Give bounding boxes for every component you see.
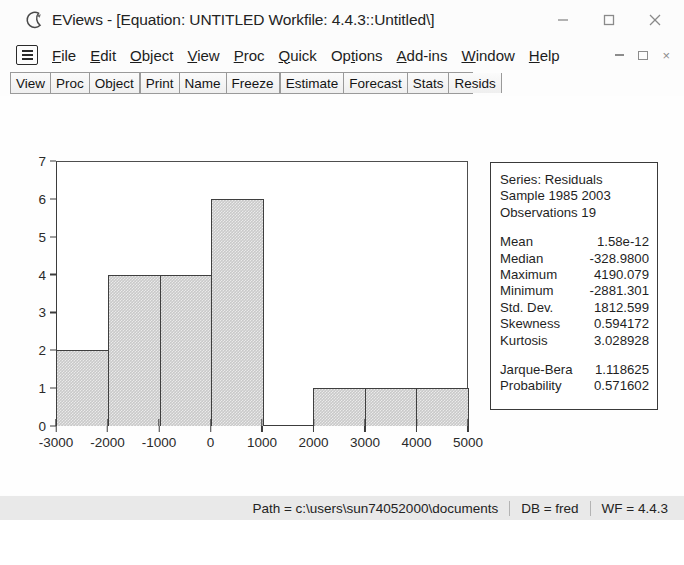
toolbar-button-name[interactable]: Name bbox=[180, 73, 227, 93]
y-axis-tick: 1 bbox=[38, 381, 56, 396]
statistics-tests: Jarque-Bera1.118625Probability0.571602 bbox=[500, 362, 657, 395]
menu-item-proc[interactable]: Proc bbox=[227, 47, 272, 64]
stats-observations: Observations 19 bbox=[500, 205, 657, 221]
stat-value: 0.594172 bbox=[579, 316, 649, 332]
mdi-restore-icon[interactable] bbox=[638, 51, 648, 60]
eviews-logo-icon bbox=[24, 10, 44, 30]
x-axis-tick: 1000 bbox=[247, 426, 277, 450]
mdi-window-controls: × bbox=[615, 40, 670, 70]
object-toolbar: View Proc Object Print Name Freeze Estim… bbox=[10, 72, 473, 94]
stat-value: -2881.301 bbox=[579, 283, 649, 299]
test-row: Probability0.571602 bbox=[500, 378, 657, 394]
menu-item-addins[interactable]: Add-ins bbox=[390, 47, 455, 64]
maximize-icon[interactable] bbox=[586, 3, 632, 37]
x-axis-tick: 2000 bbox=[298, 426, 328, 450]
stats-spacer-1 bbox=[500, 221, 657, 234]
stat-label: Kurtosis bbox=[500, 333, 579, 349]
statistic-row: Maximum 4190.079 bbox=[500, 267, 657, 283]
mdi-minimize-icon[interactable] bbox=[615, 54, 624, 56]
menu-bar: File Edit Object View Proc Quick Options… bbox=[0, 40, 684, 70]
statistic-row: Skewness 0.594172 bbox=[500, 316, 657, 332]
x-axis-tick: -3000 bbox=[39, 426, 74, 450]
toolbar-button-print[interactable]: Print bbox=[141, 73, 180, 93]
status-separator-1 bbox=[509, 501, 510, 516]
x-axis-inner-tick bbox=[364, 419, 365, 426]
window-title: EViews - [Equation: UNTITLED Workfile: 4… bbox=[52, 11, 434, 29]
stat-value: 4190.079 bbox=[579, 267, 649, 283]
status-separator-2 bbox=[590, 501, 591, 516]
y-axis-tick: 2 bbox=[38, 343, 56, 358]
statistic-row: Minimum-2881.301 bbox=[500, 283, 657, 299]
stat-label: Median bbox=[500, 251, 579, 267]
x-axis-inner-tick bbox=[261, 419, 262, 426]
statistic-row: Median-328.9800 bbox=[500, 251, 657, 267]
stat-label: Probability bbox=[500, 378, 579, 394]
x-axis-tick: 4000 bbox=[401, 426, 431, 450]
histogram-bar bbox=[211, 199, 264, 426]
statistic-row: Kurtosis 3.028928 bbox=[500, 333, 657, 349]
menu-item-edit[interactable]: Edit bbox=[83, 47, 123, 64]
x-axis-inner-tick bbox=[313, 419, 314, 426]
y-axis-tick: 6 bbox=[38, 191, 56, 206]
menu-item-window[interactable]: Window bbox=[454, 47, 521, 64]
stat-value: 1.118625 bbox=[579, 362, 649, 378]
toolbar-button-freeze[interactable]: Freeze bbox=[227, 73, 280, 93]
x-axis-tick: 0 bbox=[207, 426, 215, 450]
stat-label: Std. Dev. bbox=[500, 300, 579, 316]
stat-label: Mean bbox=[500, 234, 579, 250]
toolbar-button-forecast[interactable]: Forecast bbox=[344, 73, 408, 93]
histogram-x-axis: -3000-2000-1000010002000300040005000 bbox=[56, 426, 468, 452]
statistic-row: Mean1.58e-12 bbox=[500, 234, 657, 250]
menu-item-options[interactable]: Options bbox=[324, 47, 390, 64]
page-margin bbox=[0, 520, 684, 565]
histogram-bar bbox=[365, 388, 418, 426]
status-path: Path = c:\users\sun74052000\documents bbox=[252, 501, 498, 516]
toolbar-button-resids[interactable]: Resids bbox=[449, 73, 501, 93]
mdi-close-icon[interactable]: × bbox=[662, 49, 670, 62]
close-icon[interactable] bbox=[632, 3, 678, 37]
eviews-window: EViews - [Equation: UNTITLED Workfile: 4… bbox=[0, 0, 684, 565]
x-axis-tick: 3000 bbox=[350, 426, 380, 450]
toolbar-button-proc[interactable]: Proc bbox=[51, 73, 90, 93]
stat-value: 3.028928 bbox=[579, 333, 649, 349]
toolbar-button-view[interactable]: View bbox=[11, 73, 51, 93]
window-controls bbox=[540, 0, 678, 40]
status-db: DB = fred bbox=[521, 501, 578, 516]
menu-item-help[interactable]: Help bbox=[522, 47, 567, 64]
toolbar-button-object[interactable]: Object bbox=[90, 73, 140, 93]
histogram-plot bbox=[56, 161, 468, 426]
menu-item-view[interactable]: View bbox=[180, 47, 226, 64]
toolbar-button-stats[interactable]: Stats bbox=[408, 73, 450, 93]
x-axis-tick: -1000 bbox=[142, 426, 177, 450]
toolbar-button-estimate[interactable]: Estimate bbox=[281, 73, 345, 93]
stat-value: 0.571602 bbox=[579, 378, 649, 394]
x-axis-tick: 5000 bbox=[453, 426, 483, 450]
x-axis-inner-tick bbox=[107, 419, 108, 426]
system-menu-icon[interactable] bbox=[16, 45, 38, 65]
menu-item-file[interactable]: File bbox=[45, 47, 83, 64]
status-wf: WF = 4.4.3 bbox=[602, 501, 668, 516]
x-axis-inner-tick bbox=[416, 419, 417, 426]
stats-sample: Sample 1985 2003 bbox=[500, 188, 657, 204]
histogram-bar bbox=[56, 350, 109, 426]
x-axis-inner-tick bbox=[467, 419, 468, 426]
y-axis-tick: 5 bbox=[38, 229, 56, 244]
x-axis-inner-tick bbox=[55, 419, 56, 426]
stat-value: -328.9800 bbox=[579, 251, 649, 267]
status-bar: Path = c:\users\sun74052000\documents DB… bbox=[0, 496, 684, 520]
histogram-bar bbox=[313, 388, 366, 426]
menu-items: File Edit Object View Proc Quick Options… bbox=[45, 47, 567, 64]
stat-value: 1.58e-12 bbox=[579, 234, 649, 250]
menu-item-object[interactable]: Object bbox=[123, 47, 180, 64]
title-bar: EViews - [Equation: UNTITLED Workfile: 4… bbox=[0, 0, 684, 40]
menu-item-quick[interactable]: Quick bbox=[272, 47, 324, 64]
y-axis-tick: 4 bbox=[38, 267, 56, 282]
stat-label: Maximum bbox=[500, 267, 579, 283]
histogram-bar bbox=[160, 275, 213, 426]
stat-label: Jarque-Bera bbox=[500, 362, 579, 378]
histogram-bars bbox=[56, 161, 468, 426]
histogram-bar bbox=[416, 388, 469, 426]
y-axis-tick: 7 bbox=[38, 154, 56, 169]
stat-label: Skewness bbox=[500, 316, 579, 332]
minimize-icon[interactable] bbox=[540, 3, 586, 37]
